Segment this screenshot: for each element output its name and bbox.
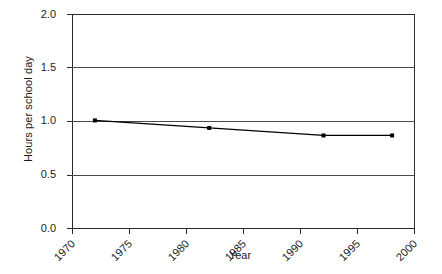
data-series-layer [0, 0, 442, 274]
series-markers [93, 118, 394, 137]
data-point-marker [390, 133, 394, 137]
data-point-marker [93, 118, 97, 122]
chart-figure: Hours per school day Year 2.0 1.5 1.0 0.… [0, 0, 442, 274]
data-point-marker [322, 133, 326, 137]
series-line [95, 120, 392, 135]
data-point-marker [207, 126, 211, 130]
